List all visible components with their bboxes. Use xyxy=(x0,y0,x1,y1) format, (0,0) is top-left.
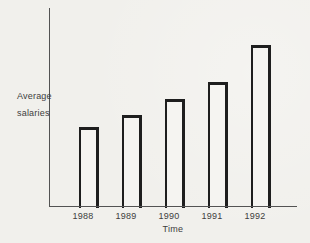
x-axis-title: Time xyxy=(153,224,193,234)
x-tick-label-1989: 1989 xyxy=(109,211,143,221)
bar-1989 xyxy=(122,115,142,208)
y-axis-label: Average salaries xyxy=(17,88,52,122)
bar-1992 xyxy=(251,45,271,208)
bar-1988 xyxy=(79,127,99,208)
bar-1990 xyxy=(165,99,185,208)
x-tick-label-1990: 1990 xyxy=(152,211,186,221)
x-tick-label-1988: 1988 xyxy=(66,211,100,221)
y-axis-label-line2: salaries xyxy=(17,105,52,122)
x-axis-line xyxy=(49,206,297,207)
x-tick-label-1991: 1991 xyxy=(195,211,229,221)
bar-1991 xyxy=(208,82,228,208)
y-axis-label-line1: Average xyxy=(17,88,52,105)
x-tick-label-1992: 1992 xyxy=(238,211,272,221)
